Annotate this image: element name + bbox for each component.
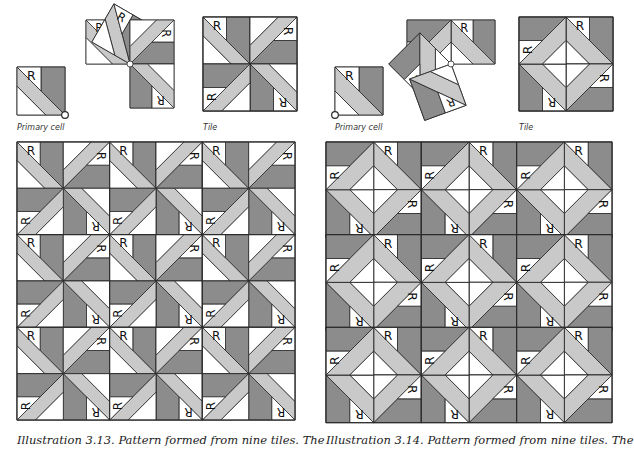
svg-text:R: R bbox=[187, 337, 201, 346]
pattern-tile-3-13: RRRR bbox=[17, 327, 110, 420]
svg-text:R: R bbox=[184, 219, 193, 233]
svg-text:R: R bbox=[327, 356, 342, 365]
pattern-tile-3-14: RRRR bbox=[517, 142, 612, 237]
svg-text:R: R bbox=[596, 200, 611, 209]
svg-text:R: R bbox=[27, 144, 36, 158]
svg-text:R: R bbox=[19, 216, 33, 225]
svg-text:R: R bbox=[187, 152, 201, 161]
svg-text:R: R bbox=[159, 29, 173, 37]
svg-text:R: R bbox=[94, 152, 108, 161]
pattern-tile-3-14: RRRR bbox=[421, 235, 516, 330]
svg-text:R: R bbox=[27, 68, 36, 83]
pattern-tile-3-13: RRRR bbox=[110, 327, 203, 420]
construction-3-14: RRRR bbox=[389, 20, 495, 120]
pattern-tile-3-14: RRRR bbox=[421, 327, 516, 422]
svg-text:R: R bbox=[345, 68, 354, 83]
svg-text:R: R bbox=[119, 329, 128, 343]
svg-text:R: R bbox=[119, 236, 128, 250]
svg-text:R: R bbox=[479, 328, 488, 343]
pattern-tile-3-14: RRRR bbox=[326, 142, 421, 237]
svg-text:R: R bbox=[119, 144, 128, 158]
svg-text:R: R bbox=[574, 143, 583, 158]
svg-text:R: R bbox=[27, 236, 36, 250]
pattern-tile-3-13: RRRR bbox=[17, 142, 110, 235]
svg-text:R: R bbox=[276, 404, 285, 418]
svg-text:R: R bbox=[547, 95, 556, 109]
tile-label-left: Tile bbox=[203, 123, 217, 132]
svg-text:R: R bbox=[184, 312, 193, 326]
tile-3-14: RRRR bbox=[519, 17, 613, 111]
svg-text:R: R bbox=[596, 292, 611, 301]
tile-label-right: Tile bbox=[519, 123, 533, 132]
svg-text:R: R bbox=[501, 385, 516, 394]
svg-text:R: R bbox=[19, 401, 33, 410]
svg-text:R: R bbox=[204, 216, 218, 225]
svg-text:R: R bbox=[204, 401, 218, 410]
svg-text:R: R bbox=[384, 236, 393, 251]
svg-text:R: R bbox=[355, 407, 364, 422]
svg-text:R: R bbox=[91, 312, 100, 326]
svg-text:R: R bbox=[597, 74, 611, 83]
svg-text:R: R bbox=[276, 312, 285, 326]
svg-text:R: R bbox=[405, 292, 420, 301]
svg-text:R: R bbox=[212, 144, 221, 158]
pattern-tile-3-13: RRRR bbox=[202, 235, 295, 328]
svg-text:R: R bbox=[422, 356, 437, 365]
svg-text:R: R bbox=[405, 385, 420, 394]
tile-3-13: RRRR bbox=[203, 17, 297, 111]
svg-text:R: R bbox=[94, 244, 108, 253]
svg-text:R: R bbox=[19, 309, 33, 318]
svg-text:R: R bbox=[212, 329, 221, 343]
svg-text:R: R bbox=[281, 27, 295, 36]
pattern-tile-3-13: RRRR bbox=[202, 327, 295, 420]
svg-text:R: R bbox=[276, 219, 285, 233]
svg-text:R: R bbox=[205, 92, 219, 101]
svg-text:R: R bbox=[518, 263, 533, 272]
svg-text:R: R bbox=[596, 385, 611, 394]
pattern-tile-3-13: RRRR bbox=[17, 235, 110, 328]
svg-text:R: R bbox=[91, 404, 100, 418]
primary-cell-label-right: Primary cell bbox=[335, 123, 382, 132]
svg-text:R: R bbox=[422, 171, 437, 180]
primary-cell-3-14: R bbox=[332, 67, 383, 118]
primary-cell-3-13: R bbox=[17, 67, 68, 118]
svg-text:R: R bbox=[111, 216, 125, 225]
svg-text:R: R bbox=[278, 95, 287, 109]
svg-text:R: R bbox=[94, 337, 108, 346]
svg-text:R: R bbox=[574, 236, 583, 251]
pattern-tile-3-14: RRRR bbox=[517, 235, 612, 330]
svg-text:R: R bbox=[212, 236, 221, 250]
svg-text:R: R bbox=[327, 263, 342, 272]
svg-text:R: R bbox=[204, 309, 218, 318]
svg-text:R: R bbox=[460, 21, 468, 35]
svg-text:R: R bbox=[422, 263, 437, 272]
svg-text:R: R bbox=[187, 244, 201, 253]
svg-text:R: R bbox=[450, 407, 459, 422]
svg-text:R: R bbox=[157, 93, 165, 107]
svg-text:R: R bbox=[279, 244, 293, 253]
svg-text:R: R bbox=[384, 143, 393, 158]
pattern-tile-3-14: RRRR bbox=[326, 327, 421, 422]
construction-3-13: RRRR bbox=[86, 4, 174, 108]
svg-text:R: R bbox=[518, 356, 533, 365]
svg-text:R: R bbox=[111, 309, 125, 318]
svg-text:R: R bbox=[405, 200, 420, 209]
svg-text:R: R bbox=[184, 404, 193, 418]
caption-3-14: Illustration 3.14. Pattern formed from n… bbox=[326, 433, 634, 447]
pattern-tile-3-14: RRRR bbox=[326, 235, 421, 330]
pattern-tile-3-14: RRRR bbox=[421, 142, 516, 237]
svg-text:R: R bbox=[27, 329, 36, 343]
svg-text:R: R bbox=[574, 328, 583, 343]
svg-text:R: R bbox=[479, 143, 488, 158]
svg-text:R: R bbox=[501, 200, 516, 209]
svg-text:R: R bbox=[327, 171, 342, 180]
primary-cell-label-left: Primary cell bbox=[17, 123, 64, 132]
pattern-tile-3-13: RRRR bbox=[110, 142, 203, 235]
caption-3-13: Illustration 3.13. Pattern formed from n… bbox=[17, 433, 325, 447]
svg-text:R: R bbox=[518, 171, 533, 180]
svg-text:R: R bbox=[576, 19, 585, 33]
svg-text:R: R bbox=[479, 236, 488, 251]
pattern-tile-3-14: RRRR bbox=[517, 327, 612, 422]
svg-text:R: R bbox=[279, 337, 293, 346]
svg-text:R: R bbox=[213, 19, 222, 33]
